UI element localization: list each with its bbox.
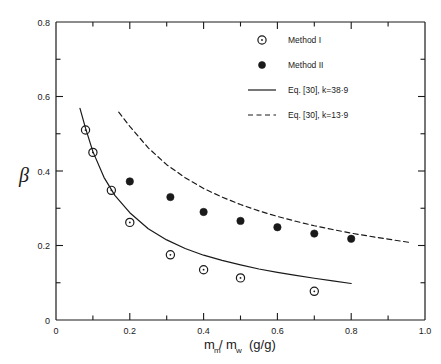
x-axis-title: m m / m w (g/g) — [204, 337, 276, 355]
x-tick-label: 0 — [53, 326, 58, 336]
curve-dashed — [119, 112, 411, 242]
legend-glyph-filled-circle — [259, 62, 266, 69]
data-point-method-1-center — [129, 222, 131, 224]
chart-legend: Method IMethod IIEq. [30], k=38·9Eq. [30… — [248, 35, 349, 120]
x-axis-title-slash: / — [219, 337, 223, 352]
data-point-method-1-center — [203, 269, 205, 271]
figure-container: 00.20.40.60.81.000.20.40.60.8 β m m / m … — [0, 0, 441, 364]
y-tick-label: 0.4 — [37, 167, 50, 177]
data-point-method-1-center — [240, 277, 242, 279]
y-axis-title: β — [18, 164, 29, 187]
y-tick-label: 0.6 — [37, 92, 50, 102]
data-point-method-2 — [126, 178, 133, 185]
x-tick-label: 1.0 — [419, 326, 432, 336]
tick-labels: 00.20.40.60.81.000.20.40.60.8 — [37, 18, 431, 337]
legend-glyph-open-circle-center — [261, 39, 263, 41]
legend-label: Method I — [288, 35, 321, 45]
x-axis-title-m2-sub: w — [235, 346, 242, 355]
x-tick-label: 0.8 — [345, 326, 358, 336]
chart-canvas: 00.20.40.60.81.000.20.40.60.8 β m m / m … — [0, 0, 441, 364]
data-point-method-2 — [200, 208, 207, 215]
data-point-method-2 — [311, 230, 318, 237]
data-point-method-2 — [167, 193, 174, 200]
legend-label: Method II — [288, 60, 323, 70]
data-point-method-1-center — [169, 254, 171, 256]
x-axis-title-units: (g/g) — [249, 337, 276, 352]
data-series — [80, 108, 410, 295]
data-point-method-2 — [274, 224, 281, 231]
y-tick-label: 0.8 — [37, 18, 50, 28]
x-tick-label: 0.6 — [271, 326, 284, 336]
legend-label: Eq. [30], k=38·9 — [288, 85, 349, 95]
data-point-method-1-center — [313, 290, 315, 292]
y-tick-label: 0 — [45, 316, 50, 326]
x-tick-label: 0.2 — [124, 326, 137, 336]
data-point-method-2 — [237, 217, 244, 224]
y-tick-label: 0.2 — [37, 241, 50, 251]
curve-solid — [80, 108, 351, 283]
x-tick-label: 0.4 — [197, 326, 210, 336]
legend-label: Eq. [30], k=13·9 — [288, 110, 349, 120]
data-point-method-2 — [348, 235, 355, 242]
